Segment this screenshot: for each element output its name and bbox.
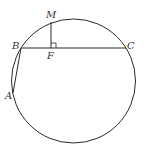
circle-diagram	[0, 0, 146, 153]
label-m: M	[46, 10, 56, 20]
right-angle-mark	[51, 43, 56, 48]
label-f: F	[47, 51, 54, 61]
label-a: A	[5, 91, 12, 101]
circle	[12, 19, 136, 143]
label-c: C	[127, 41, 135, 51]
label-b: B	[12, 41, 19, 51]
geometry-figure: M B C F A	[0, 0, 146, 153]
